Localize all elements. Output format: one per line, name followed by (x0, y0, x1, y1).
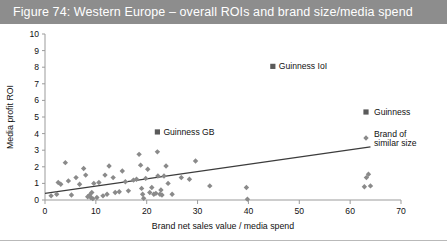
y-tick-label: 8 (34, 62, 39, 72)
data-point-diamond (120, 168, 125, 173)
data-point-diamond (149, 185, 154, 190)
data-point-diamond (193, 158, 198, 163)
data-point-diamond (112, 190, 117, 195)
x-tick-label: 0 (43, 206, 48, 216)
x-tick-label: 20 (142, 206, 152, 216)
data-point-diamond (123, 179, 128, 184)
x-tick-label: 60 (345, 206, 355, 216)
y-tick-label: 4 (34, 129, 39, 139)
x-tick-label: 50 (295, 206, 305, 216)
figure-title-banner: Figure 74: Western Europe – overall ROIs… (0, 0, 447, 24)
data-point-diamond (136, 152, 141, 157)
data-point-diamond (110, 175, 115, 180)
legend-label-similar-line2: similar size (374, 138, 417, 148)
data-point-diamond (94, 195, 99, 200)
data-point-diamond (48, 193, 53, 198)
data-point-diamond (81, 166, 86, 171)
legend-label-guinness: Guinness (374, 107, 410, 117)
page-title: Figure 74: Western Europe – overall ROIs… (0, 5, 413, 19)
data-point-diamond (83, 172, 88, 177)
data-point-diamond (77, 182, 82, 187)
y-tick-label: 1 (34, 178, 39, 188)
data-point-diamond (362, 184, 367, 189)
data-point-diamond (138, 162, 143, 167)
data-point-diamond (187, 177, 192, 182)
point-annotations: Guinness IoIGuinness GB (163, 61, 327, 137)
data-point-diamond (244, 185, 249, 190)
data-point-diamond (66, 178, 71, 183)
data-point-diamond (102, 172, 107, 177)
data-point-diamond (165, 181, 170, 186)
y-tick-label: 5 (34, 112, 39, 122)
data-point-diamond (63, 160, 68, 165)
data-point-diamond (169, 191, 174, 196)
y-tick-label: 2 (34, 162, 39, 172)
annotation-label: Guinness IoI (279, 61, 327, 71)
x-tick-label: 10 (91, 206, 101, 216)
y-axis-ticks: 012345678910 (29, 29, 45, 205)
data-point-diamond (140, 191, 145, 196)
chart-legend: GuinnessBrand ofsimilar size (363, 107, 416, 148)
data-points-similar-size (48, 149, 373, 202)
figure-container: Figure 74: Western Europe – overall ROIs… (0, 0, 447, 246)
legend-marker-diamond (363, 135, 368, 140)
data-point-diamond (155, 149, 160, 154)
x-axis-title: Brand net sales value / media spend (152, 221, 294, 231)
y-tick-label: 3 (34, 145, 39, 155)
data-point-diamond (69, 192, 74, 197)
x-tick-label: 30 (193, 206, 203, 216)
data-point-diamond (126, 188, 131, 193)
figure-bottom-rule (0, 240, 447, 241)
plot-svg: 012345678910 010203040506070 Guinness Io… (0, 24, 447, 240)
data-point-diamond (207, 183, 212, 188)
scatter-plot: 012345678910 010203040506070 Guinness Io… (0, 24, 447, 240)
data-point-diamond (163, 163, 168, 168)
x-axis-ticks: 010203040506070 (43, 200, 406, 216)
data-point-diamond (96, 180, 101, 185)
y-tick-label: 10 (29, 29, 39, 39)
y-tick-label: 6 (34, 95, 39, 105)
data-point-diamond (245, 196, 250, 201)
y-tick-label: 7 (34, 79, 39, 89)
legend-marker-square (363, 109, 368, 114)
data-point-diamond (145, 167, 150, 172)
data-point-diamond (139, 186, 144, 191)
data-point-diamond (179, 175, 184, 180)
data-points-guinness (155, 64, 276, 135)
x-tick-label: 40 (244, 206, 254, 216)
x-tick-label: 70 (396, 206, 406, 216)
data-point-diamond (73, 175, 78, 180)
annotation-label: Guinness GB (163, 127, 214, 137)
data-point-diamond (368, 183, 373, 188)
y-tick-label: 9 (34, 46, 39, 56)
y-tick-label: 0 (34, 195, 39, 205)
data-point-square (155, 129, 160, 134)
y-axis-title: Media profit ROI (5, 85, 15, 149)
data-point-diamond (91, 181, 96, 186)
data-point-diamond (106, 163, 111, 168)
data-point-diamond (158, 187, 163, 192)
data-point-diamond (161, 173, 166, 178)
data-point-diamond (143, 176, 148, 181)
data-point-diamond (117, 189, 122, 194)
data-point-square (270, 64, 275, 69)
